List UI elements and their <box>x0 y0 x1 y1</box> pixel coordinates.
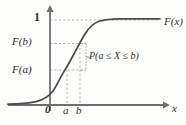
cdf-curve <box>8 19 160 104</box>
y-axis-arrowhead <box>46 5 53 12</box>
cdf-plot-svg <box>0 0 186 125</box>
cdf-figure: 1 F(b) F(a) 0 a b F(x) x P(a ≤ X ≤ b) <box>0 0 186 125</box>
x-axis-arrowhead <box>163 101 170 108</box>
